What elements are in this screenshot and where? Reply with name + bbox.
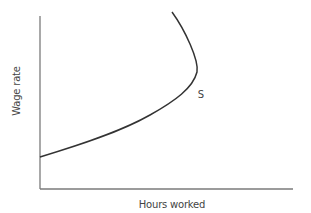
labour-supply-chart: Wage rate Hours worked S — [0, 0, 311, 213]
chart-plot — [0, 0, 311, 213]
supply-curve-s — [40, 12, 197, 157]
y-axis-label: Wage rate — [11, 66, 22, 116]
curve-label-s: S — [198, 89, 204, 100]
x-axis-label: Hours worked — [139, 199, 205, 210]
